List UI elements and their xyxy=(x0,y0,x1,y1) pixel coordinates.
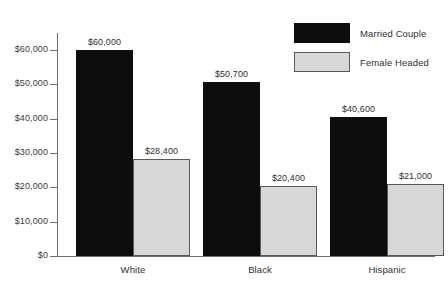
bar-white-female-headed xyxy=(133,159,190,256)
y-axis-tick-mark xyxy=(50,187,57,188)
y-axis-tick-mark xyxy=(50,153,57,154)
y-axis-tick-label: $60,000 xyxy=(0,44,48,54)
bar-value-label: $50,700 xyxy=(195,69,268,79)
legend-swatch-married-couple xyxy=(294,23,350,43)
y-axis-tick-label: $0 xyxy=(0,250,48,260)
bar-black-married-couple xyxy=(203,82,260,256)
y-axis-tick-label: $30,000 xyxy=(0,147,48,157)
category-label-white: White xyxy=(76,264,190,275)
category-label-hispanic: Hispanic xyxy=(330,264,444,275)
bar-value-label: $28,400 xyxy=(125,146,198,156)
y-axis-tick-mark xyxy=(50,222,57,223)
bar-hispanic-married-couple xyxy=(330,117,387,256)
y-axis-tick-mark xyxy=(50,119,57,120)
bar-hispanic-female-headed xyxy=(387,184,444,256)
bar-value-label: $20,400 xyxy=(252,173,325,183)
bar-value-label: $60,000 xyxy=(68,37,141,47)
y-axis-tick-label: $20,000 xyxy=(0,181,48,191)
legend-item-female-headed: Female Headed xyxy=(294,52,429,72)
category-label-black: Black xyxy=(203,264,317,275)
legend-item-married-couple: Married Couple xyxy=(294,23,429,43)
y-axis-tick-label: $40,000 xyxy=(0,113,48,123)
y-axis-tick-mark xyxy=(50,256,57,257)
y-axis-tick-label: $10,000 xyxy=(0,216,48,226)
y-axis-tick-mark xyxy=(50,84,57,85)
bar-black-female-headed xyxy=(260,186,317,256)
x-axis-line xyxy=(57,256,435,257)
bar-value-label: $40,600 xyxy=(322,104,395,114)
chart-legend: Married Couple Female Headed xyxy=(294,23,429,81)
bar-group: $60,000$28,400 xyxy=(76,33,190,256)
bar-value-label: $21,000 xyxy=(379,171,448,181)
y-axis-tick-mark xyxy=(50,50,57,51)
legend-swatch-female-headed xyxy=(294,52,350,72)
legend-label-married-couple: Married Couple xyxy=(360,28,426,39)
y-axis-tick-label: $50,000 xyxy=(0,78,48,88)
legend-label-female-headed: Female Headed xyxy=(360,57,429,68)
